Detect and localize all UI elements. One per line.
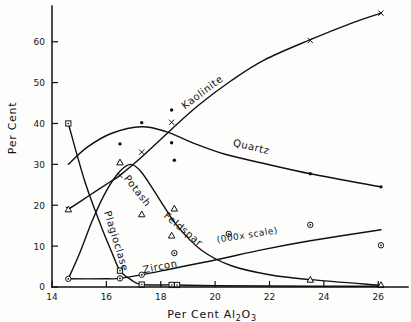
y-tick-label: 60 (34, 37, 46, 47)
datapoint-zircon-center (119, 278, 121, 280)
datapoint-plagioclase-center (171, 284, 173, 286)
x-tick-label: 26 (373, 292, 385, 302)
datapoint-quartz (140, 121, 143, 124)
curve-label-potash: Potash (122, 173, 153, 209)
datapoint-potash-feldspar (168, 232, 174, 238)
axes-layer: 010203040506014161820222426 (34, 6, 408, 302)
curve-kaolinite (68, 13, 381, 209)
curve-label-zircon: Zircon (142, 258, 179, 275)
datapoint-quartz (118, 142, 121, 145)
datapoint-kaolinite (117, 173, 122, 178)
datapoint-quartz (173, 159, 176, 162)
datapoint-quartz (379, 185, 382, 188)
x-axis-title: Per Cent Al2O3 (167, 308, 257, 322)
datapoint-plagioclase-center (141, 284, 143, 286)
x-tick-label: 24 (318, 292, 330, 302)
y-tick-label: 40 (34, 119, 46, 129)
y-tick-label: 20 (34, 201, 46, 211)
datapoint-kaolinite (139, 149, 144, 154)
x-tick-label: 20 (209, 292, 221, 302)
datapoint-potash-feldspar (117, 159, 123, 165)
datapoint-potash-feldspar (139, 211, 145, 217)
y-tick-label: 10 (34, 242, 46, 252)
datapoint-plagioclase-center (176, 284, 178, 286)
datapoint-quartz (170, 108, 173, 111)
x-tick-label: 22 (264, 292, 275, 302)
datapoint-zircon-center (141, 274, 143, 276)
curve-label-kaolinite: Kaolinite (179, 73, 225, 111)
curve-plagioclase (68, 123, 381, 286)
x-tick-label: 14 (46, 292, 58, 302)
curve-label-quartz: Quartz (232, 137, 271, 156)
datapoint-zircon-center (67, 278, 69, 280)
datapoint-zircon-center (309, 224, 311, 226)
datapoint-kaolinite (169, 120, 174, 125)
datapoint-quartz (170, 141, 173, 144)
chart-figure: 010203040506014161820222426 Per CentPer … (0, 0, 411, 322)
y-axis-title: Per Cent (6, 102, 19, 154)
datapoint-zircon-center (380, 244, 382, 246)
datapoint-zircon-center (173, 252, 175, 254)
mineral-composition-chart: 010203040506014161820222426 Per CentPer … (0, 0, 411, 322)
y-tick-label: 30 (34, 160, 46, 170)
y-tick-label: 0 (39, 282, 45, 292)
y-tick-label: 50 (34, 78, 46, 88)
datapoint-quartz (309, 172, 312, 175)
datapoint-plagioclase-center (68, 123, 70, 125)
curve-label-feldspar: Feldspar (162, 210, 205, 249)
annotation-scale-note: (000x scale) (216, 225, 278, 245)
x-tick-label: 16 (101, 292, 113, 302)
x-tick-label: 18 (155, 292, 167, 302)
datapoint-potash-feldspar (171, 205, 177, 211)
